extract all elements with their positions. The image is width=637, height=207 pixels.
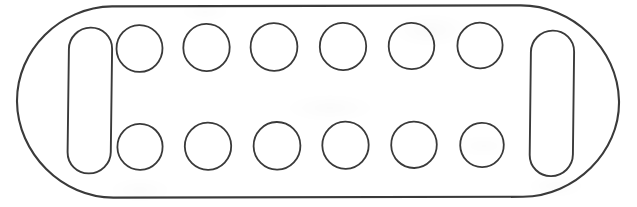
line-drawing: [0, 0, 637, 207]
drawing-canvas: [0, 0, 637, 207]
page-background: [0, 0, 637, 207]
